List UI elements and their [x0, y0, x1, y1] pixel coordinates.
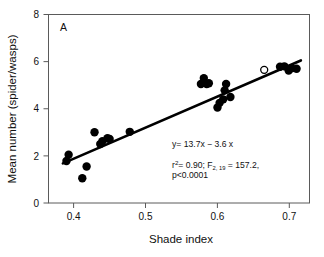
data-point: [64, 150, 72, 158]
data-point: [226, 93, 234, 101]
data-point: [205, 79, 213, 87]
annotation-pvalue: p<0.0001: [172, 170, 208, 180]
x-axis-title: Shade index: [149, 233, 213, 245]
y-tick-label-6: 6: [33, 56, 39, 67]
data-point: [292, 64, 300, 72]
data-point: [105, 135, 113, 143]
data-point: [219, 95, 227, 103]
data-point: [82, 162, 90, 170]
x-axis-ticks: [74, 203, 290, 208]
y-axis-ticks: [44, 15, 49, 204]
x-tick-label-05: 0.5: [139, 211, 153, 222]
stats-tail: = 157.2,: [225, 160, 259, 170]
y-tick-label-4: 4: [33, 103, 39, 114]
stats-subscript: 2, 19: [213, 165, 226, 171]
panel-label: A: [60, 21, 67, 33]
data-point: [78, 174, 86, 182]
x-tick-label-07: 0.7: [282, 211, 296, 222]
data-point: [126, 128, 134, 136]
y-axis-title: Mean number (spider/wasps): [6, 34, 18, 183]
data-point: [90, 128, 98, 136]
figure-panel: 0 2 4 6 8 0.4 0.5 0.6 0.7 Shade index Me…: [0, 0, 324, 257]
y-tick-label-0: 0: [33, 198, 39, 209]
data-point: [261, 66, 268, 73]
stats-middle: = 0.90; F: [178, 160, 212, 170]
data-point: [222, 80, 230, 88]
x-tick-label-06: 0.6: [210, 211, 224, 222]
annotation-equation: y= 13.7x − 3.6 x: [172, 139, 234, 149]
x-tick-label-04: 0.4: [67, 211, 81, 222]
scatter-plot: 0 2 4 6 8 0.4 0.5 0.6 0.7 Shade index Me…: [0, 0, 324, 257]
y-tick-label-8: 8: [33, 9, 39, 20]
y-tick-label-2: 2: [33, 151, 39, 162]
